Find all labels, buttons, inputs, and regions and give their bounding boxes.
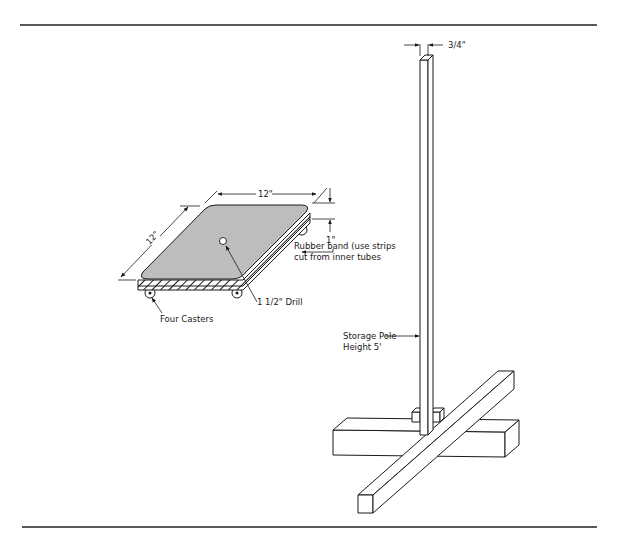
dolly-drawing: 12" 12" 1" Rubber band (use strips cut f… xyxy=(118,188,396,324)
pole-callout-line2: Height 5' xyxy=(343,342,382,352)
pole-block-left xyxy=(412,412,420,422)
pole-side xyxy=(428,55,433,435)
drill-callout: 1 1/2" Drill xyxy=(257,297,303,307)
storage-pole-drawing: 3/4" Storage Pole Height 5' xyxy=(333,40,519,513)
pole-callout-line1: Storage Pole xyxy=(343,331,397,341)
rubber-band-callout-line1: Rubber band (use strips xyxy=(294,241,396,251)
drill-hole xyxy=(220,238,227,245)
figure-canvas: 12" 12" 1" Rubber band (use strips cut f… xyxy=(0,0,627,548)
rubber-band-callout-line2: cut from inner tubes xyxy=(294,252,381,262)
casters-callout: Four Casters xyxy=(160,314,214,324)
pole-front xyxy=(420,60,428,435)
pole-width-label: 3/4" xyxy=(448,40,466,50)
dolly-width-label: 12" xyxy=(258,189,273,199)
